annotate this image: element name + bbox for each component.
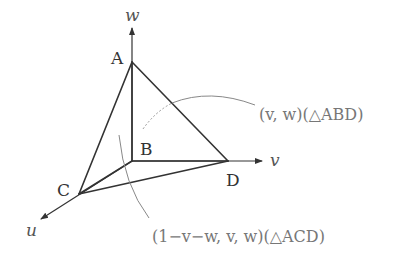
- vertex-label-a: A: [110, 48, 124, 68]
- vertex-label-d: D: [226, 170, 240, 190]
- annotation-abd: (v, w)(△ABD): [259, 105, 363, 124]
- leader-abd-hidden: [143, 103, 172, 129]
- vertex-label-c: C: [57, 180, 70, 200]
- leader-abd: [172, 96, 255, 105]
- tetrahedron-diagram: w v u A B C D (v, w)(△ABD) (1−v−w, v, w)…: [0, 0, 420, 264]
- vertex-label-b: B: [140, 139, 153, 159]
- axis-label-v: v: [270, 150, 280, 170]
- edge-ac: [79, 62, 132, 194]
- axis-label-u: u: [26, 220, 37, 240]
- annotation-acd: (1−v−w, v, w)(△ACD): [152, 227, 325, 246]
- axis-label-w: w: [125, 5, 140, 25]
- edge-cd: [79, 161, 228, 194]
